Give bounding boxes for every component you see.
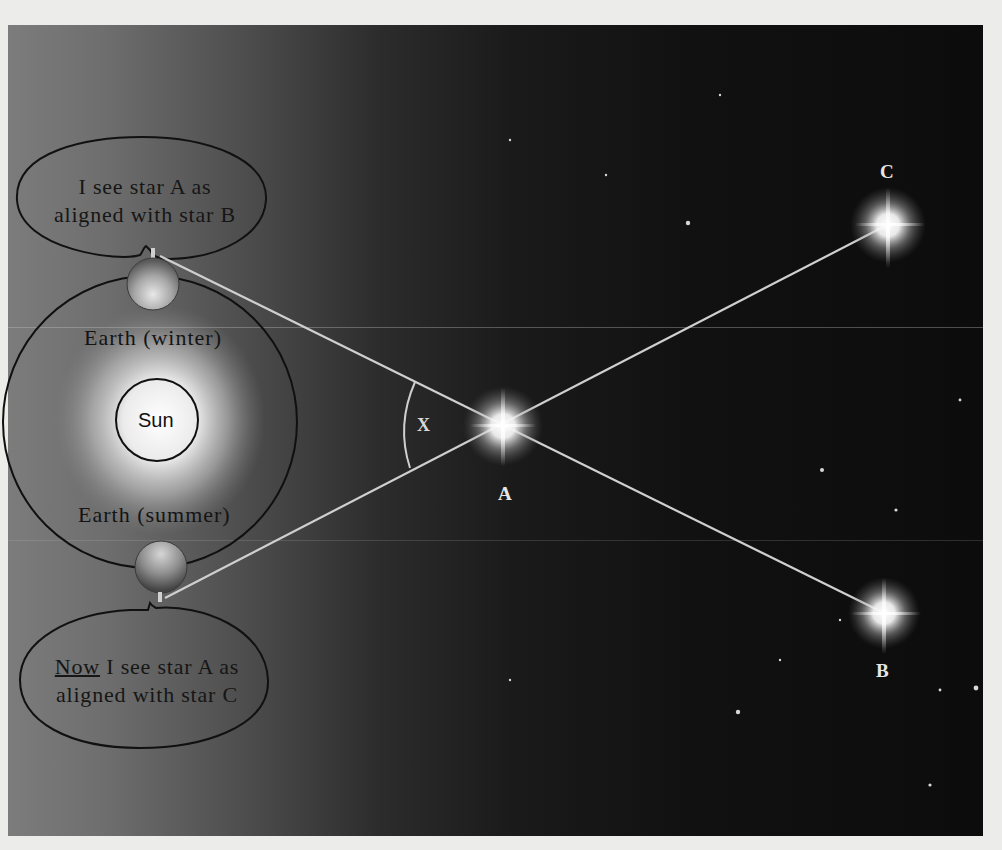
summer-bubble-text: Now I see star A as aligned with star C xyxy=(22,653,272,709)
parallax-angle-arc xyxy=(404,382,415,468)
earth-summer-label: Earth (summer) xyxy=(78,504,231,526)
angle-x-label: X xyxy=(417,416,430,434)
star-c-label: C xyxy=(880,162,894,181)
summer-bubble-line-1: Now I see star A as xyxy=(22,653,272,681)
star-b-label: B xyxy=(876,661,889,680)
winter-bubble-text: I see star A as aligned with star B xyxy=(25,173,265,229)
star-c-icon xyxy=(850,187,926,268)
winter-bubble-line-2: aligned with star B xyxy=(25,201,265,229)
star-a-icon xyxy=(463,386,543,466)
earth-summer-icon xyxy=(135,541,187,602)
winter-bubble-line-1: I see star A as xyxy=(25,173,265,201)
sun-label: Sun xyxy=(138,410,174,430)
star-b-icon xyxy=(848,577,921,654)
now-emphasis: Now xyxy=(55,654,100,679)
earth-winter-icon xyxy=(127,248,179,310)
star-a-label: A xyxy=(498,484,512,503)
summer-bubble-line-2: aligned with star C xyxy=(22,681,272,709)
earth-winter-label: Earth (winter) xyxy=(84,327,222,349)
